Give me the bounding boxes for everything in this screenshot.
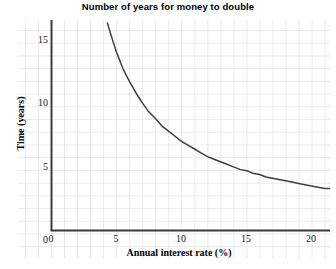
x-tick-label-10: 10 [176, 233, 186, 244]
y-tick-label-10: 10 [24, 97, 48, 108]
y-tick-label-0: 0 [24, 234, 48, 245]
grid-svg [18, 20, 330, 258]
x-tick-label-5: 5 [114, 233, 119, 244]
x-tick-label-15: 15 [241, 233, 251, 244]
chart-title: Number of years for money to double [0, 1, 336, 12]
grid-background [18, 20, 330, 258]
x-tick-label-0: 0 [49, 233, 54, 244]
y-tick-label-5: 5 [24, 161, 48, 172]
y-tick-label-15: 15 [24, 34, 48, 45]
chart-figure: Number of years for money to double 0 5 … [0, 0, 336, 269]
x-tick-label-20: 20 [306, 233, 316, 244]
x-axis-title: Annual interest rate (%) [0, 247, 336, 258]
y-axis-title: Time (years) [15, 74, 26, 174]
